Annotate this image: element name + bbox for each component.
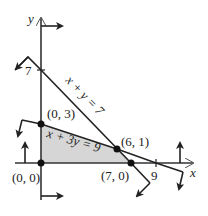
- x-tick-label: 9: [151, 168, 158, 183]
- constraint-arrow-1b: [137, 183, 150, 196]
- vertex-label-7-0: (7, 0): [101, 168, 129, 183]
- vertex-7-0: [128, 160, 135, 167]
- vertex-label-0-3: (0, 3): [47, 106, 75, 121]
- y-tick-label: 7: [25, 63, 32, 78]
- constraint-arrow-2b: [179, 172, 183, 189]
- vertex-6-1: [114, 146, 121, 153]
- vertex-0-3: [38, 121, 45, 128]
- vertex-label-6-1: (6, 1): [121, 134, 149, 149]
- diagram-canvas: y x 7 9 x + y = 7 x + 3y = 9 (0, 0) (0, …: [0, 0, 208, 216]
- constraint-arrow-2a: [18, 120, 22, 136]
- y-axis-label: y: [26, 11, 34, 26]
- x-axis-label: x: [189, 165, 196, 180]
- vertex-label-0-0: (0, 0): [12, 170, 40, 185]
- vertex-0-0: [38, 160, 45, 167]
